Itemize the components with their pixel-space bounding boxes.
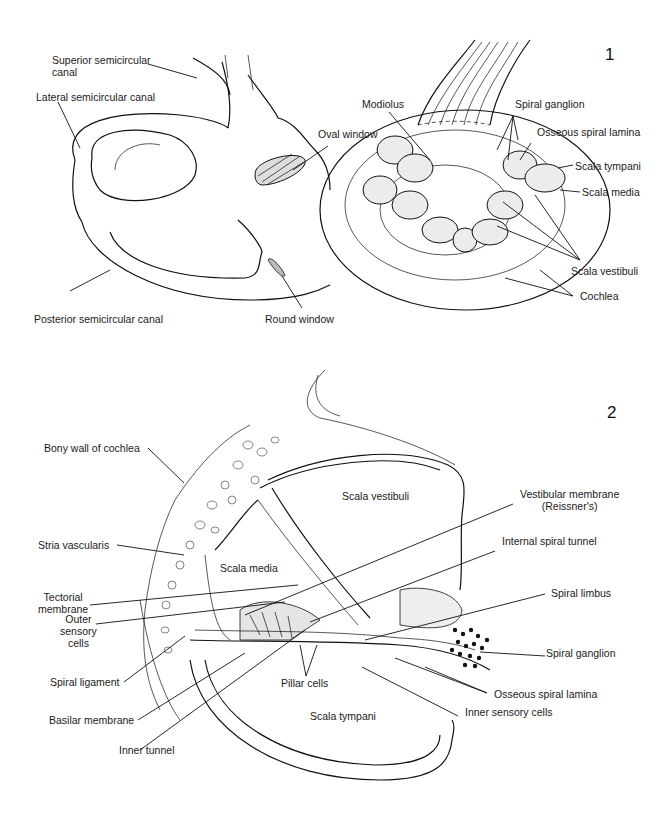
label-scala-tympani: Scala tympani [575,160,641,172]
figure-number: 2 [607,403,616,423]
label-scala-tympani: Scala tympani [310,710,376,722]
label-osseous-spiral-lamina: Osseous spiral lamina [537,126,640,138]
label-line: Superior semicircular [52,54,151,66]
cochlear-duct-illustration [0,340,672,832]
label-stria-vascularis: Stria vascularis [38,539,109,551]
label-scala-media: Scala media [582,186,640,198]
label-basilar-membrane: Basilar membrane [49,714,134,726]
label-vestibular-membrane: Vestibular membrane (Reissner's) [520,488,619,512]
label-spiral-ganglion: Spiral ganglion [515,98,584,110]
label-pillar-cells: Pillar cells [281,677,328,689]
label-modiolus: Modiolus [362,98,404,110]
label-inner-tunnel: Inner tunnel [119,744,174,756]
labyrinth-illustration [0,0,672,340]
label-oval-window: Oval window [318,128,378,140]
figure-1-inner-ear-labyrinth: 1 Superior semicircular canal Lateral se… [0,0,672,340]
label-outer-sensory-cells: Outer sensory cells [60,613,97,649]
figure-number: 1 [605,45,614,65]
label-spiral-limbus: Spiral limbus [551,587,611,599]
label-posterior-semicircular-canal: Posterior semicircular canal [34,313,163,325]
label-line: Tectorial [38,591,88,603]
label-osseous-spiral-lamina: Osseous spiral lamina [494,688,597,700]
label-scala-vestibuli: Scala vestibuli [571,265,638,277]
label-scala-media: Scala media [220,562,278,574]
label-bony-wall-of-cochlea: Bony wall of cochlea [44,442,140,454]
label-lateral-semicircular-canal: Lateral semicircular canal [36,91,155,103]
label-internal-spiral-tunnel: Internal spiral tunnel [502,535,597,547]
label-line: cells [60,637,97,649]
label-line: (Reissner's) [520,500,619,512]
label-line: Vestibular membrane [520,488,619,500]
label-spiral-ligament: Spiral ligament [50,676,119,688]
label-line: sensory [60,625,97,637]
label-line: canal [52,66,151,78]
label-spiral-ganglion: Spiral ganglion [546,647,615,659]
label-superior-semicircular-canal: Superior semicircular canal [52,54,151,78]
label-cochlea: Cochlea [580,290,619,302]
label-scala-vestibuli: Scala vestibuli [342,490,409,502]
label-line: Outer [60,613,97,625]
figure-2-cochlear-cross-section: 2 Bony wall of cochlea Scala vestibuli V… [0,340,672,832]
label-inner-sensory-cells: Inner sensory cells [465,706,553,718]
label-round-window: Round window [265,313,334,325]
label-tectorial-membrane: Tectorial membrane [38,591,88,615]
